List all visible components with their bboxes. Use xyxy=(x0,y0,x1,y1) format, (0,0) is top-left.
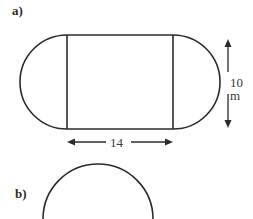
length-dimension-label: 14 xyxy=(110,136,123,149)
arrow-right-icon xyxy=(165,139,173,146)
arrow-left-icon xyxy=(67,139,75,146)
diagram-canvas xyxy=(0,0,253,219)
arrow-down-icon xyxy=(225,120,232,128)
figure-b-circle xyxy=(43,164,153,219)
left-semicircle xyxy=(20,35,67,129)
width-dimension-label: 10 m xyxy=(230,76,253,102)
figure-b-label: b) xyxy=(15,187,27,200)
arrow-up-icon xyxy=(225,39,232,47)
right-semicircle xyxy=(173,35,220,129)
figure-a-shape xyxy=(20,35,220,129)
